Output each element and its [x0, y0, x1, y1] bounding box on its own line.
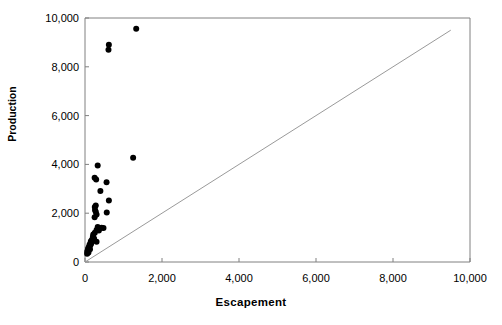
y-tick-label: 6,000 — [19, 111, 79, 122]
replacement-line-line — [85, 30, 451, 262]
x-tick-label: 2,000 — [132, 273, 192, 284]
y-tick-label: 10,000 — [19, 13, 79, 24]
data-point — [97, 188, 103, 194]
data-point — [84, 251, 90, 257]
data-point — [95, 162, 101, 168]
x-tick-label: 4,000 — [209, 273, 269, 284]
data-point — [92, 214, 98, 220]
data-point — [104, 209, 110, 215]
data-point — [94, 239, 100, 245]
x-tick-label: 10,000 — [440, 273, 500, 284]
y-tick-label: 4,000 — [19, 159, 79, 170]
x-tick-label: 8,000 — [363, 273, 423, 284]
data-point — [133, 26, 139, 32]
y-axis-title: Production — [6, 64, 18, 164]
y-tick-label: 0 — [19, 257, 79, 268]
y-tick-label: 2,000 — [19, 208, 79, 219]
data-point — [106, 198, 112, 204]
scatter-chart: Production Escapement 02,0004,0006,0008,… — [0, 0, 502, 325]
x-tick-label: 0 — [55, 273, 115, 284]
x-tick-label: 6,000 — [286, 273, 346, 284]
data-point — [93, 177, 99, 183]
data-point — [104, 179, 110, 185]
y-tick-label: 8,000 — [19, 62, 79, 73]
data-point — [130, 155, 136, 161]
x-axis-title: Escapement — [0, 296, 502, 308]
data-point — [105, 47, 111, 53]
series-0-points — [84, 26, 139, 257]
